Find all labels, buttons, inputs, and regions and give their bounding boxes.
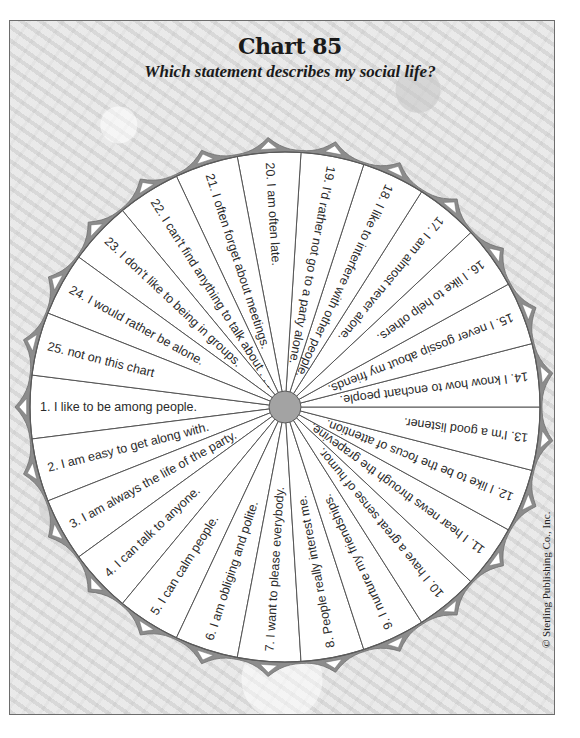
segment-label-1: 1. I like to be among people. (40, 400, 197, 414)
wheel-hub (269, 391, 301, 423)
pendulum-wheel: 1. I like to be among people.2. I am eas… (0, 0, 580, 738)
copyright-notice: © Sterling Publishing Co., Inc. (540, 512, 552, 648)
